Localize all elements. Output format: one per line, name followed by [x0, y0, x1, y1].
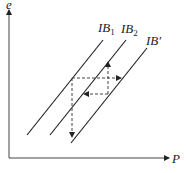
ib1-label: IB1: [97, 20, 115, 37]
ib1-curve: [27, 40, 103, 135]
diagram-canvas: e P IB1 IB2 IB′: [0, 0, 187, 173]
y-axis-label: e: [6, 0, 12, 12]
ib-diagram: e P IB1 IB2 IB′: [0, 0, 187, 173]
ib2-label: IB2: [120, 21, 138, 38]
ib2-curve: [50, 40, 126, 135]
adjustment-arrows: [72, 62, 121, 137]
ibprime-label: IB′: [145, 33, 161, 48]
ibprime-curve: [71, 48, 147, 143]
x-axis-label: P: [171, 151, 180, 166]
